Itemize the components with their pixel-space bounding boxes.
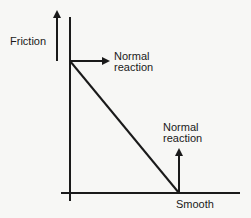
ladder-force-diagram: Friction Normal reaction Normal reaction… xyxy=(0,0,251,218)
diagram-graphics xyxy=(0,0,251,218)
smooth-label: Smooth xyxy=(176,198,214,210)
normal-reaction-top-label-line2: reaction xyxy=(114,61,153,73)
friction-label: Friction xyxy=(10,35,46,47)
normal-reaction-bottom-label-line2: reaction xyxy=(163,132,202,144)
